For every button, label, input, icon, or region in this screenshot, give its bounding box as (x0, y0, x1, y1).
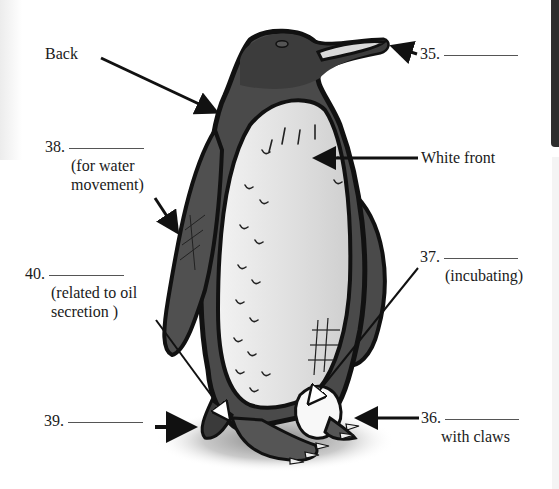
eye (276, 41, 288, 47)
label-38-number: 38. (45, 137, 65, 156)
answer-blank-35[interactable] (444, 54, 518, 56)
label-39-number: 39. (44, 411, 64, 430)
label-40: 40. (related to oil secretion ) (25, 264, 137, 321)
label-38: 38. (for water movement) (45, 137, 144, 194)
label-38-hint-line1: (for water (71, 156, 144, 175)
label-39: 39. (44, 411, 143, 430)
answer-blank-37[interactable] (444, 257, 518, 259)
label-36-number: 36. (421, 408, 441, 427)
arrow-35 (395, 47, 417, 54)
arrow-38 (155, 198, 176, 230)
label-36-hint: with claws (441, 427, 519, 446)
label-37: 37. (incubating) (420, 247, 523, 285)
white-belly (218, 100, 350, 408)
answer-blank-36[interactable] (445, 418, 519, 420)
arrow-back (101, 58, 214, 111)
answer-blank-40[interactable] (49, 274, 124, 276)
label-back-text: Back (45, 45, 78, 62)
answer-blank-39[interactable] (68, 421, 143, 423)
label-36: 36. with claws (421, 408, 519, 446)
label-37-number: 37. (420, 247, 440, 266)
label-35-number: 35. (420, 44, 440, 63)
label-35: 35. (420, 44, 518, 63)
label-37-hint: (incubating) (445, 266, 523, 285)
label-white-front-text: White front (421, 149, 495, 166)
label-38-hint-line2: movement) (71, 175, 144, 194)
label-40-hint-line2: secretion ) (51, 302, 137, 321)
label-white-front: White front (421, 148, 495, 167)
label-back: Back (45, 44, 78, 63)
answer-blank-38[interactable] (69, 147, 144, 149)
label-40-hint-line1: (related to oil (51, 283, 137, 302)
label-40-number: 40. (25, 264, 45, 283)
